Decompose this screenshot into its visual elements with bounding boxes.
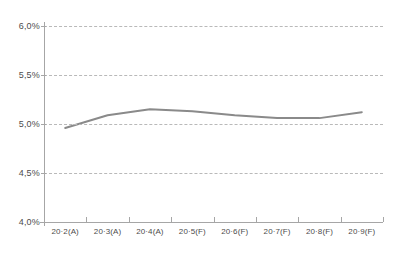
x-tick-label: 20·2(A) bbox=[44, 227, 86, 247]
x-tick-label: 20·4(A) bbox=[129, 227, 171, 247]
y-tick-label: 4,0% bbox=[0, 217, 40, 227]
y-tick-mark bbox=[41, 75, 46, 76]
y-tick-mark bbox=[41, 124, 46, 125]
x-tick-mark bbox=[171, 217, 172, 222]
x-tick-label: 20·8(F) bbox=[298, 227, 340, 247]
x-tick-mark bbox=[298, 217, 299, 222]
gridline bbox=[44, 173, 383, 174]
x-tick-mark bbox=[44, 217, 45, 222]
x-tick-label: 20·7(F) bbox=[256, 227, 298, 247]
line-chart: 6,0%5,5%5,0%4,5%4,0% 20·2(A)20·3(A)20·4(… bbox=[0, 0, 399, 257]
y-axis-labels: 6,0%5,5%5,0%4,5%4,0% bbox=[0, 0, 40, 257]
x-tick-label: 20·6(F) bbox=[214, 227, 256, 247]
x-tick-mark bbox=[256, 217, 257, 222]
y-tick-mark bbox=[41, 222, 46, 223]
y-tick-label: 5,5% bbox=[0, 70, 40, 80]
x-tick-label: 20·9(F) bbox=[341, 227, 383, 247]
x-tick-mark bbox=[86, 217, 87, 222]
x-tick-mark bbox=[129, 217, 130, 222]
y-tick-label: 4,5% bbox=[0, 168, 40, 178]
gridline bbox=[44, 75, 383, 76]
x-tick-mark bbox=[214, 217, 215, 222]
x-axis-labels: 20·2(A)20·3(A)20·4(A)20·5(F)20·6(F)20·7(… bbox=[44, 227, 383, 247]
y-tick-mark bbox=[41, 173, 46, 174]
x-tick-label: 20·3(A) bbox=[86, 227, 128, 247]
y-tick-label: 5,0% bbox=[0, 119, 40, 129]
x-tick-mark bbox=[383, 217, 384, 222]
plot-area bbox=[44, 26, 383, 222]
gridline bbox=[44, 124, 383, 125]
x-tick-mark bbox=[341, 217, 342, 222]
series-polyline bbox=[65, 109, 362, 128]
x-tick-label: 20·5(F) bbox=[171, 227, 213, 247]
y-tick-label: 6,0% bbox=[0, 21, 40, 31]
gridline bbox=[44, 26, 383, 27]
x-axis-line bbox=[40, 222, 383, 223]
y-tick-mark bbox=[41, 26, 46, 27]
